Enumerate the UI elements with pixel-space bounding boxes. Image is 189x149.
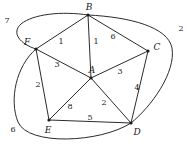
vertex-dot-c [146,49,149,52]
inner-edge-group [36,15,148,123]
edge-a-e [49,78,91,120]
outer-edge-b-d [88,15,172,123]
edge-c-d [131,51,148,123]
edge-e-d [49,120,131,123]
outer-edge-f-b [17,13,88,49]
vertex-dot-a [89,76,92,79]
vertex-dot-d [129,121,132,124]
edge-a-d [91,78,131,123]
edge-b-a [88,15,91,78]
vertex-dot-e [47,118,50,121]
edge-f-e [36,49,49,120]
edge-a-c [91,51,148,78]
edge-b-c [88,15,148,51]
outer-edge-group [14,13,172,139]
vertex-dot-group [34,13,149,124]
outer-edge-f-e [14,49,131,139]
edge-f-a [36,49,91,78]
vertex-dot-f [34,47,37,50]
edge-f-b [36,15,88,49]
graph-canvas [0,0,189,149]
graph-diagram: 7261163342825ABCDEF [0,0,189,149]
vertex-dot-b [86,13,89,16]
